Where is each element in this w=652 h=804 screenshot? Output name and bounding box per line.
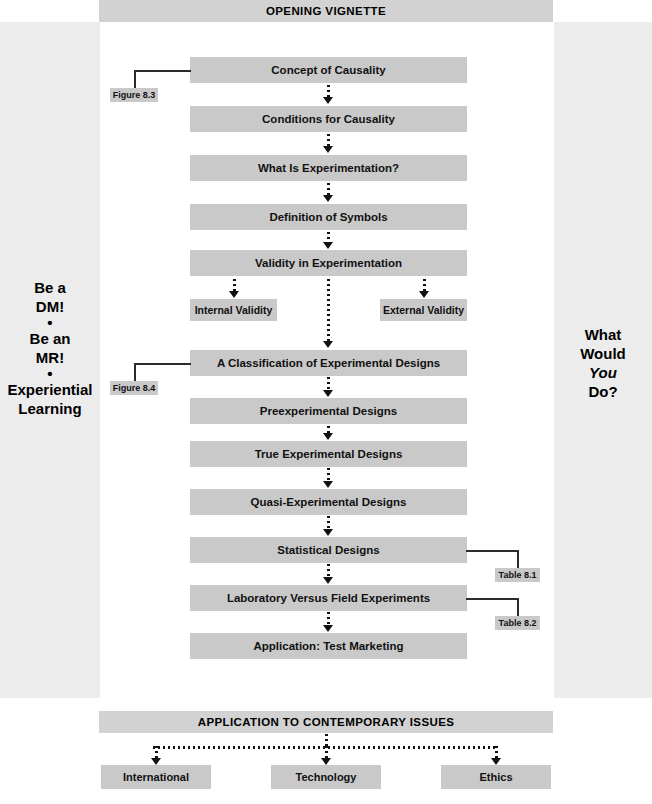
flow-step-internal-validity[interactable]: Internal Validity — [190, 299, 277, 321]
arrow-laboratory-to-application — [323, 612, 333, 632]
arrow-preexperimental-to-true — [323, 426, 333, 440]
flow-step-true-experimental-designs[interactable]: True Experimental Designs — [190, 441, 467, 467]
flow-step-concept-of-causality[interactable]: Concept of Causality — [190, 57, 467, 83]
leader-figure-8-3-vertical — [134, 70, 136, 88]
arrow-rail-to-technology — [321, 746, 331, 765]
flow-step-external-validity[interactable]: External Validity — [380, 299, 467, 321]
flow-step-conditions-for-causality[interactable]: Conditions for Causality — [190, 106, 467, 132]
arrow-rail-to-ethics — [491, 746, 501, 765]
flow-step-classification-of-experimental-designs[interactable]: A Classification of Experimental Designs — [190, 350, 467, 376]
left-sidebar-line-5: Experiential — [0, 380, 100, 399]
arrow-validity-to-classification — [323, 279, 333, 349]
left-sidebar-bullet-1: • — [0, 316, 100, 329]
arrow-definition-to-validity — [323, 232, 333, 249]
leader-figure-8-4-horizontal — [134, 363, 191, 365]
reference-tag-figure-8-4[interactable]: Figure 8.4 — [110, 381, 158, 395]
flow-step-technology[interactable]: Technology — [271, 765, 381, 789]
leader-table-8-1-vertical — [517, 550, 519, 568]
left-sidebar-bullet-2: • — [0, 367, 100, 380]
left-sidebar-panel: Be a DM! • Be an MR! • Experiential Lear… — [0, 22, 100, 698]
left-sidebar-line-6: Learning — [0, 399, 100, 418]
flow-step-laboratory-versus-field-experiments[interactable]: Laboratory Versus Field Experiments — [190, 585, 467, 611]
right-sidebar-line-4: Do? — [554, 382, 652, 401]
flowchart-page: Be a DM! • Be an MR! • Experiential Lear… — [0, 0, 652, 804]
left-sidebar-line-1: Be a — [0, 278, 100, 297]
arrow-validity-to-internal-validity — [229, 279, 239, 298]
left-sidebar-line-3: Be an — [0, 329, 100, 348]
reference-tag-table-8-1[interactable]: Table 8.1 — [495, 568, 540, 582]
flow-step-quasi-experimental-designs[interactable]: Quasi-Experimental Designs — [190, 489, 467, 515]
arrow-banner-to-rail — [321, 734, 331, 746]
left-sidebar-text: Be a DM! • Be an MR! • Experiential Lear… — [0, 278, 100, 418]
flow-step-validity-in-experimentation[interactable]: Validity in Experimentation — [190, 250, 467, 276]
arrow-classification-to-preexperimental — [323, 377, 333, 397]
leader-table-8-1-horizontal — [466, 550, 518, 552]
opening-vignette-banner: OPENING VIGNETTE — [99, 0, 553, 22]
arrow-concept-to-conditions — [323, 85, 333, 104]
arrow-statistical-to-laboratory — [323, 564, 333, 584]
flow-step-international[interactable]: International — [101, 765, 211, 789]
flow-step-preexperimental-designs[interactable]: Preexperimental Designs — [190, 398, 467, 424]
application-contemporary-issues-banner: APPLICATION TO CONTEMPORARY ISSUES — [99, 711, 553, 733]
leader-figure-8-4-vertical — [134, 363, 136, 381]
arrow-quasi-to-statistical — [323, 516, 333, 536]
arrow-rail-to-international — [151, 746, 161, 765]
right-sidebar-text: What Would You Do? — [554, 325, 652, 401]
reference-tag-table-8-2[interactable]: Table 8.2 — [495, 616, 540, 630]
flow-step-ethics[interactable]: Ethics — [441, 765, 551, 789]
arrow-what-is-experimentation-to-definition — [323, 183, 333, 202]
right-sidebar-line-2: Would — [554, 344, 652, 363]
flow-step-definition-of-symbols[interactable]: Definition of Symbols — [190, 204, 467, 230]
right-sidebar-line-1: What — [554, 325, 652, 344]
right-sidebar-panel: What Would You Do? — [554, 22, 652, 698]
arrow-conditions-to-what-is-experimentation — [323, 134, 333, 153]
right-sidebar-line-3: You — [554, 363, 652, 382]
leader-table-8-2-horizontal — [466, 598, 518, 600]
leader-figure-8-3-horizontal — [134, 70, 191, 72]
arrow-true-to-quasi — [323, 468, 333, 488]
flow-step-statistical-designs[interactable]: Statistical Designs — [190, 537, 467, 563]
leader-table-8-2-vertical — [517, 598, 519, 616]
flow-step-what-is-experimentation[interactable]: What Is Experimentation? — [190, 155, 467, 181]
arrow-validity-to-external-validity — [419, 279, 429, 298]
flow-step-application-test-marketing[interactable]: Application: Test Marketing — [190, 633, 467, 659]
reference-tag-figure-8-3[interactable]: Figure 8.3 — [110, 88, 158, 102]
